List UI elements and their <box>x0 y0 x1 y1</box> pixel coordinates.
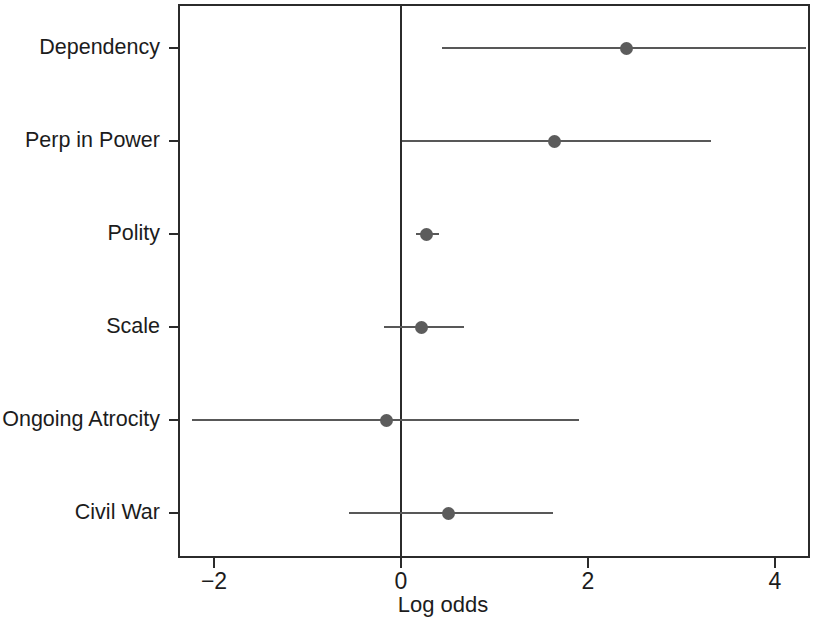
forest-plot-figure: DependencyPerp in PowerPolityScaleOngoin… <box>0 0 826 625</box>
y-axis-tick <box>169 419 178 421</box>
estimate-point-marker <box>548 135 561 148</box>
x-axis-title: Log odds <box>0 594 826 616</box>
x-axis-tick <box>213 558 215 568</box>
x-axis-tick-label: 2 <box>558 570 618 593</box>
x-axis-tick <box>587 558 589 568</box>
estimate-point-marker <box>380 414 393 427</box>
y-axis-tick <box>169 512 178 514</box>
y-axis-tick <box>169 140 178 142</box>
x-axis-tick-label: 4 <box>745 570 805 593</box>
x-axis-tick-label: −2 <box>184 570 244 593</box>
zero-reference-line <box>400 4 402 558</box>
estimate-point-marker <box>442 507 455 520</box>
x-axis-tick <box>400 558 402 568</box>
estimate-point-marker <box>620 42 633 55</box>
y-axis-label-dependency: Dependency <box>39 37 160 59</box>
y-axis-label-ongoing-atrocity: Ongoing Atrocity <box>2 409 160 431</box>
y-axis-label-scale: Scale <box>106 316 160 338</box>
y-axis-tick <box>169 233 178 235</box>
x-axis-title-text: Log odds <box>398 594 489 616</box>
x-axis-tick <box>774 558 776 568</box>
estimate-point-marker <box>415 321 428 334</box>
x-axis-tick-label: 0 <box>371 570 431 593</box>
y-axis-tick <box>169 47 178 49</box>
y-axis-label-perp-in-power: Perp in Power <box>25 130 160 152</box>
y-axis-label-civil-war: Civil War <box>75 502 160 524</box>
y-axis-tick <box>169 326 178 328</box>
plot-canvas <box>178 4 810 558</box>
y-axis-label-polity: Polity <box>107 223 160 245</box>
estimate-point-marker <box>420 228 433 241</box>
